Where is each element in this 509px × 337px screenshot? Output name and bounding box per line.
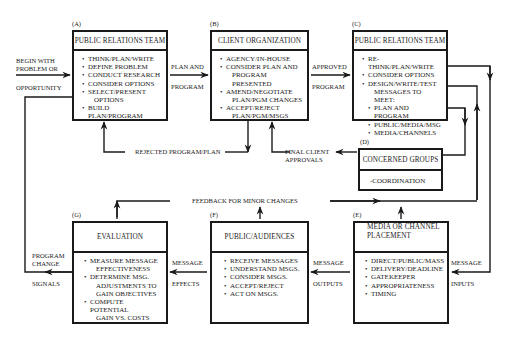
item-text: DETERMINE MSG. <box>90 273 149 281</box>
box-d-tag: (D) <box>360 138 369 145</box>
list-item: ACT ON MSGS. <box>224 290 303 298</box>
approved-program-label: PROGRAM <box>312 83 345 91</box>
message-effects-label-2: EFFECTS <box>172 280 199 288</box>
list-item: AGENCY/IN-HOUSE <box>220 55 303 63</box>
item-continuation: GAIN OBJECTIVES <box>90 290 162 298</box>
program-change-label: PROGRAM CHANGE <box>32 252 65 268</box>
list-item: COMPUTE POTENTIALGAIN VS. COSTS <box>84 298 162 323</box>
sub-list-item: PUBLIC/MEDIA/MSG <box>362 121 442 129</box>
list-item: ACCEPT/REJECTPLAN/PGM/MSGS <box>220 104 303 120</box>
message-outputs-label: MESSAGE <box>313 259 344 267</box>
list-item: DELIVERY/DEADLINE <box>365 265 443 273</box>
box-g-evaluation: EVALUATION MEASURE MESSAGEEFFECTIVENESS … <box>72 221 168 324</box>
box-e-title-line2: PLACEMENT <box>367 232 411 241</box>
box-e-items: DIRECT/PUBLIC/MASS DELIVERY/DEADLINE GAT… <box>355 253 447 298</box>
box-f-public-audiences: PUBLIC/AUDIENCES RECEIVE MESSAGES UNDERS… <box>210 221 309 324</box>
program-label: PROGRAM <box>171 83 204 91</box>
list-item: CONSIDER OPTIONS <box>362 71 442 79</box>
list-item: RECEIVE MESSAGES <box>224 257 303 265</box>
box-b-items: AGENCY/IN-HOUSE CONSIDER PLAN ANDPROGRAM… <box>212 51 307 121</box>
list-item: ACCEPT/REJECT <box>224 282 303 290</box>
box-a-tag: (A) <box>72 20 81 27</box>
box-e-media-channel-placement: MEDIA OR CHANNEL PLACEMENT DIRECT/PUBLIC… <box>353 221 449 324</box>
item-text: ACCEPT/REJECT <box>226 104 280 112</box>
entry-label-bottom: OPPORTUNITY <box>16 84 61 92</box>
message-inputs-label-2: INPUTS <box>451 280 474 288</box>
item-text: CONSIDER PLAN AND <box>226 63 298 71</box>
box-d-body: -COORDINATION <box>360 171 441 185</box>
box-b-client-organization: CLIENT ORGANIZATION AGENCY/IN-HOUSE CONS… <box>210 30 309 121</box>
box-d-title: CONCERNED GROUPS <box>360 150 441 171</box>
list-item: TIMING <box>365 290 443 298</box>
message-outputs-label-2: OUTPUTS <box>313 280 343 288</box>
program-change-line: CHANGE <box>32 260 65 268</box>
list-item: CONSIDER MSGS. <box>224 273 303 281</box>
box-f-tag: (F) <box>210 211 218 218</box>
program-change-line: PROGRAM <box>32 252 65 260</box>
plan-and-label: PLAN AND <box>171 63 204 71</box>
item-continuation: PLAN/PGM CHANGES <box>226 96 303 104</box>
list-item: DESIGN/WRITE/TESTMESSAGES TO MEET: <box>362 80 442 105</box>
box-b-title: CLIENT ORGANIZATION <box>212 32 307 51</box>
message-effects-label: MESSAGE <box>172 259 203 267</box>
box-c-title: PUBLIC RELATIONS TEAM <box>354 32 446 51</box>
box-e-tag: (E) <box>353 211 361 218</box>
entry-label: BEGIN WITH PROBLEM OR <box>16 57 58 73</box>
box-g-tag: (G) <box>72 211 81 218</box>
item-text: AMEND/NEGOTIATE <box>226 88 293 96</box>
list-item: THINK/PLAN/WRITE <box>82 55 162 63</box>
box-g-title: EVALUATION <box>74 223 166 253</box>
item-continuation: MESSAGES TO MEET: <box>368 88 442 104</box>
box-a-public-relations-team: PUBLIC RELATIONS TEAM THINK/PLAN/WRITE D… <box>72 30 168 121</box>
list-item: AMEND/NEGOTIATEPLAN/PGM CHANGES <box>220 88 303 104</box>
box-d-concerned-groups: CONCERNED GROUPS -COORDINATION <box>358 148 443 191</box>
box-g-items: MEASURE MESSAGEEFFECTIVENESS DETERMINE M… <box>74 253 166 323</box>
rejected-arrow <box>104 122 125 152</box>
entry-label-line: PROBLEM OR <box>16 65 58 73</box>
box-c-tag: (C) <box>352 20 361 27</box>
box-f-title: PUBLIC/AUDIENCES <box>212 223 307 253</box>
item-continuation: GAIN VS. COSTS <box>90 314 162 322</box>
final-approvals-line: APPROVALS <box>285 156 329 164</box>
sub-list-item: PLAN AND PROGRAM <box>362 104 442 120</box>
list-item: APPROPRIATENESS <box>365 282 443 290</box>
box-f-items: RECEIVE MESSAGES UNDERSTAND MSGS. CONSID… <box>212 253 307 298</box>
list-item: BUILD PLAN/PROGRAM <box>82 104 162 120</box>
list-item: GATEKEEPER <box>365 273 443 281</box>
box-c-public-relations-team: PUBLIC RELATIONS TEAM RE-THINK/PLAN/WRIT… <box>352 30 448 121</box>
list-item: UNDERSTAND MSGS. <box>224 265 303 273</box>
list-item: CONDUCT RESEARCH <box>82 71 162 79</box>
list-item: SELECT/PRESENTOPTIONS <box>82 88 162 104</box>
item-text: DESIGN/WRITE/TEST <box>368 80 436 88</box>
list-item: RE-THINK/PLAN/WRITE <box>362 55 442 71</box>
item-continuation: PLAN/PGM/MSGS <box>226 112 303 120</box>
feedback-label: FEEDBACK FOR MINOR CHANGES <box>192 197 298 205</box>
list-item: DETERMINE MSG.ADJUSTMENTS TOGAIN OBJECTI… <box>84 273 162 298</box>
box-c-items: RE-THINK/PLAN/WRITE CONSIDER OPTIONS DES… <box>354 51 446 137</box>
sub-list-item: MEDIA/CHANNELS <box>362 129 442 137</box>
list-item: CONSIDER PLAN ANDPROGRAM PRESENTED <box>220 63 303 88</box>
item-text: MEASURE MESSAGE <box>90 257 158 265</box>
entry-label-line: BEGIN WITH <box>16 57 58 65</box>
item-continuation: EFFECTIVENESS <box>90 265 162 273</box>
box-b-tag: (B) <box>210 20 219 27</box>
item-text: SELECT/PRESENT <box>88 88 146 96</box>
approved-label: APPROVED <box>312 63 347 71</box>
list-item: MEASURE MESSAGEEFFECTIVENESS <box>84 257 162 273</box>
list-item: CONSIDER OPTIONS <box>82 80 162 88</box>
final-approvals-label: FINAL CLIENT APPROVALS <box>285 148 329 164</box>
final-approvals-line: FINAL CLIENT <box>285 148 329 156</box>
item-continuation: ADJUSTMENTS TO <box>90 282 162 290</box>
message-inputs-label: MESSAGE <box>451 259 482 267</box>
item-continuation: PROGRAM PRESENTED <box>226 71 303 87</box>
item-continuation: OPTIONS <box>88 96 162 104</box>
rejected-label: REJECTED PROGRAM/PLAN <box>135 148 221 156</box>
list-item: DEFINE PROBLEM <box>82 63 162 71</box>
list-item: DIRECT/PUBLIC/MASS <box>365 257 443 265</box>
item-text: COMPUTE POTENTIAL <box>90 298 129 314</box>
box-a-title: PUBLIC RELATIONS TEAM <box>74 32 166 51</box>
program-change-loop <box>25 97 72 272</box>
box-e-title: MEDIA OR CHANNEL PLACEMENT <box>355 223 447 253</box>
message-inputs-arrow <box>447 66 490 272</box>
signals-label: SIGNALS <box>32 280 60 288</box>
